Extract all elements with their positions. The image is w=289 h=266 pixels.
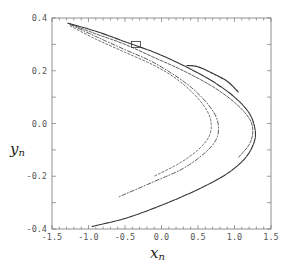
x-axis-label: xn	[150, 244, 165, 262]
y-tick-label: 0.4	[32, 13, 47, 23]
x-tick-label: -0.5	[115, 232, 135, 242]
axis-ticks: -1.5-1.0-0.50.00.51.01.5-0.4-0.20.00.20.…	[27, 13, 279, 242]
y-axis-label: yn	[9, 140, 25, 158]
x-tick-label: -1.0	[78, 232, 98, 242]
x-tick-label: 1.5	[263, 232, 278, 242]
series-inner-branch-1	[70, 25, 218, 198]
x-tick-label: 0.0	[154, 232, 169, 242]
data-series	[68, 23, 255, 226]
y-tick-label: 0.0	[32, 119, 47, 129]
y-tick-label: 0.2	[32, 66, 47, 76]
series-outer-branch	[68, 23, 255, 226]
x-tick-label: 0.5	[190, 232, 205, 242]
y-tick-label: -0.2	[27, 171, 47, 181]
plot-frame	[52, 18, 271, 229]
plot-border	[52, 18, 271, 229]
series-second-branch	[68, 23, 253, 158]
y-tick-label: -0.4	[27, 224, 47, 234]
x-tick-label: 1.0	[227, 232, 242, 242]
series-inner-loop	[187, 65, 238, 91]
attractor-chart: -1.5-1.0-0.50.00.51.01.5-0.4-0.20.00.20.…	[0, 0, 289, 266]
series-inner-branch-2	[70, 26, 211, 176]
